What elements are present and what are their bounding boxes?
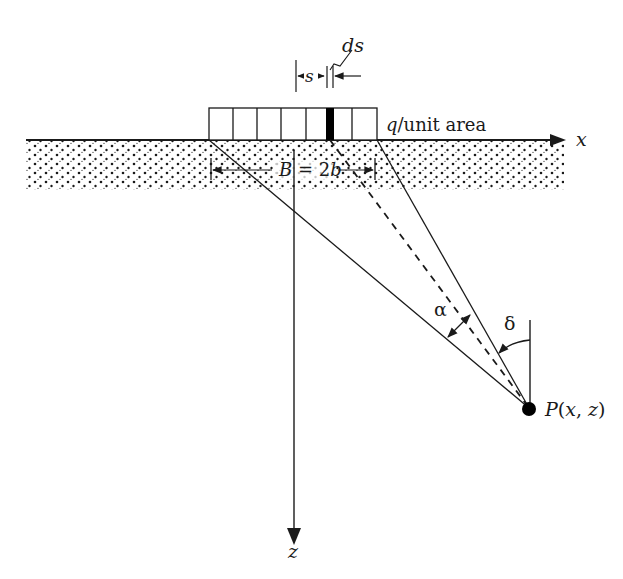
point-P-label: P(x, z) bbox=[544, 398, 605, 420]
alpha-label: α bbox=[434, 298, 447, 320]
element-ds bbox=[326, 108, 334, 140]
load-label: q/unit area bbox=[386, 114, 486, 135]
delta-label: δ bbox=[504, 312, 515, 334]
load-q: q bbox=[386, 114, 398, 135]
width-label: B = 2b bbox=[278, 159, 342, 180]
z-axis-label: z bbox=[287, 540, 299, 562]
load-unit: /unit area bbox=[398, 114, 487, 135]
s-label: s bbox=[305, 66, 314, 86]
strip-load-diagram: ds s q/unit area x B = 2b z α δ P(x, z) bbox=[0, 0, 623, 579]
delta-arc bbox=[499, 340, 530, 353]
ds-label: ds bbox=[342, 34, 364, 56]
x-axis-label: x bbox=[576, 128, 587, 150]
point-P bbox=[522, 402, 536, 416]
alpha-arc bbox=[448, 315, 470, 337]
strip-load bbox=[209, 108, 377, 140]
diagram-canvas: ds s q/unit area x B = 2b z α δ P(x, z) bbox=[0, 0, 623, 579]
